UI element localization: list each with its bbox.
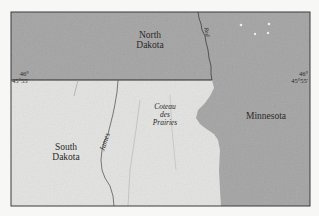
coteau-des-prairies-label: Coteau des Prairies bbox=[145, 103, 185, 127]
latitude-label-right: 46° 45°55' bbox=[288, 70, 308, 84]
south-dakota-label: South Dakota bbox=[46, 142, 86, 162]
north-dakota-label: North Dakota bbox=[130, 30, 170, 50]
minnesota-label: Minnesota bbox=[236, 111, 296, 121]
latitude-label-left: 46° 45°55' bbox=[12, 70, 29, 84]
